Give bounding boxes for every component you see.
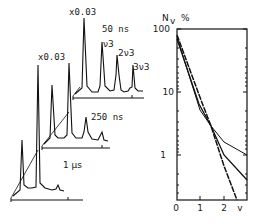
series-1-line [177,37,247,155]
y-axis-unit: % [181,13,190,23]
scale-label-250ns: x0.03 [38,52,65,62]
data-series [177,35,247,200]
y-axis-label-sub: v [170,16,176,26]
spectrum-label-250ns: 250 ns [91,112,124,122]
x-tick-1: 1 [197,203,203,213]
peak-label-2nu3: 2ν3 [118,48,134,58]
x-ticks [200,196,224,200]
spectrum-250ns [42,63,110,150]
series-3-line [177,35,237,200]
series-2-line [177,39,247,180]
population-plot: 100 10 1 0 1 2 v N v % [153,13,247,213]
connector-line [42,112,69,146]
x-tick-2: 2 [221,203,227,213]
plot-frame [177,29,247,200]
x-axis-label: v [237,203,243,213]
y-tick-1: 1 [160,150,166,160]
connector-line [73,87,80,96]
scale-label-50ns: x0.03 [69,7,96,17]
figure-canvas: x0.03 x0.03 50 ns 250 ns 1 µs ν3 2ν3 3ν3… [0,0,257,224]
spectrum-label-1us: 1 µs [63,160,82,170]
peak-label-nu3: ν3 [103,39,114,49]
spectra-panel [11,18,144,202]
spectrum-label-50ns: 50 ns [102,24,129,34]
y-tick-100: 100 [153,24,170,34]
y-tick-10: 10 [163,87,175,97]
peak-label-3nu3: 3ν3 [133,62,149,72]
y-axis-label: N [162,13,169,23]
x-tick-0: 0 [173,203,179,213]
connector-line [11,150,38,198]
